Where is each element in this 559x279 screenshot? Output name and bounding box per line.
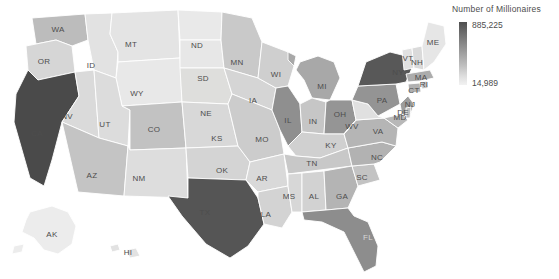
legend-gradient-bar <box>459 22 467 85</box>
state-CO[interactable] <box>122 102 186 150</box>
state-MT[interactable] <box>110 10 180 62</box>
state-SD[interactable] <box>180 40 224 68</box>
state-AL[interactable] <box>302 171 326 212</box>
us-map-svg <box>0 0 450 279</box>
state-RI[interactable] <box>421 81 428 89</box>
us-map: CATXNYFLILOHPAMINJGANCVAMAWACOAZINMNMDWI… <box>0 0 450 279</box>
state-FL[interactable] <box>302 208 378 272</box>
legend-max-value: 885,225 <box>472 20 503 30</box>
state-NM[interactable] <box>124 146 188 198</box>
state-MI[interactable] <box>288 52 340 100</box>
legend-min-value: 14,989 <box>472 78 498 88</box>
state-OK[interactable] <box>186 146 250 180</box>
legend-scale: 885,225 14,989 <box>452 20 559 102</box>
state-shapes-group <box>12 10 446 272</box>
state-ND[interactable] <box>178 10 222 40</box>
state-NE[interactable] <box>180 68 232 104</box>
state-ME[interactable] <box>422 22 446 70</box>
map-legend: Number of Millionaires 885,225 14,989 <box>452 4 559 104</box>
legend-title: Number of Millionaires <box>452 4 559 15</box>
choropleth-map-figure: CATXNYFLILOHPAMINJGANCVAMAWACOAZINMNMDWI… <box>0 0 559 279</box>
state-AK[interactable] <box>12 206 76 254</box>
state-CT[interactable] <box>408 83 421 93</box>
state-LA[interactable] <box>258 186 292 228</box>
state-WY[interactable] <box>116 58 182 106</box>
state-MN[interactable] <box>221 12 262 78</box>
state-WI[interactable] <box>258 42 294 88</box>
state-IN[interactable] <box>300 98 326 134</box>
state-HI[interactable] <box>110 244 140 258</box>
state-DE[interactable] <box>406 107 411 118</box>
state-GA[interactable] <box>324 166 358 210</box>
